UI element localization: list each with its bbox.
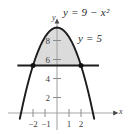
x-tick-label-pos1: 1 bbox=[67, 119, 72, 129]
intersection-dot-left bbox=[31, 63, 36, 68]
plot-canvas: 8 6 4 2 −2 −1 1 2 bbox=[0, 0, 129, 134]
y-axis-name: y bbox=[52, 14, 56, 22]
y-tick-label-6: 6 bbox=[46, 55, 51, 65]
y-tick-label-4: 4 bbox=[46, 74, 51, 84]
x-axis-name: x bbox=[119, 108, 123, 116]
x-axis-arrow-icon bbox=[113, 111, 118, 116]
line-equation-label: y = 5 bbox=[78, 33, 102, 44]
x-tick-label-neg1: −1 bbox=[41, 119, 51, 129]
y-tick-label-2: 2 bbox=[46, 93, 51, 103]
math-figure: 8 6 4 2 −2 −1 1 2 y x y = 9 − x² y = 5 bbox=[0, 0, 129, 134]
y-tick-label-8: 8 bbox=[46, 36, 51, 46]
x-tick-label-neg2: −2 bbox=[28, 119, 38, 129]
curve-equation-label: y = 9 − x² bbox=[63, 7, 109, 18]
x-tick-label-pos2: 2 bbox=[79, 119, 84, 129]
intersection-dot-right bbox=[79, 63, 84, 68]
